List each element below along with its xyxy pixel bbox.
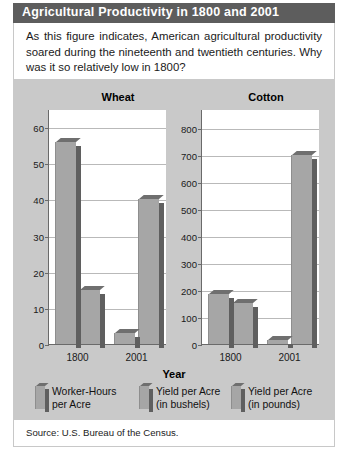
legend-item: Yield per Acre(in pounds): [231, 386, 312, 411]
y-axis-tickmark: [45, 164, 49, 165]
y-axis-tickmark: [45, 345, 49, 346]
y-axis-tick-label: 50: [15, 160, 44, 169]
bar-top-face: [139, 195, 164, 199]
bar-top-face: [56, 138, 81, 142]
y-axis-tickmark: [198, 183, 202, 184]
chart-panel: Wheat Cotton 010203040506018002001010020…: [13, 79, 335, 420]
y-axis-tickmark: [198, 291, 202, 292]
bar-side-face: [229, 298, 234, 348]
y-axis-tickmark: [198, 156, 202, 157]
y-axis-tickmark: [45, 128, 49, 129]
gridline: [48, 128, 166, 129]
y-axis-tick-label: 700: [168, 152, 197, 161]
legend-label: Yield per Acre(in pounds): [248, 386, 312, 411]
bar-top-face: [292, 151, 317, 155]
y-axis-tick-label: 30: [15, 233, 44, 242]
y-axis-tick-label: 10: [15, 305, 44, 314]
figure-title: Agricultural Productivity in 1800 and 20…: [22, 5, 279, 19]
legend-label-line2: per Acre: [52, 399, 116, 412]
y-axis-tickmark: [198, 345, 202, 346]
legend-item: Worker-Hoursper Acre: [35, 386, 116, 411]
bar-side-face: [100, 294, 105, 348]
figure-header-bar: Agricultural Productivity in 1800 and 20…: [13, 3, 335, 23]
y-axis-tick-label: 800: [168, 125, 197, 134]
y-axis-tickmark: [45, 200, 49, 201]
y-axis-tick-label: 20: [15, 269, 44, 278]
source-text: Source: U.S. Bureau of the Census.: [26, 427, 179, 438]
legend-item: Yield per Acre(in bushels): [139, 386, 220, 411]
y-axis-tick-label: 600: [168, 179, 197, 188]
bar: [291, 155, 312, 344]
figure-agricultural-productivity: Agricultural Productivity in 1800 and 20…: [0, 0, 340, 450]
bar-side-face: [253, 307, 258, 348]
bar-side-face: [135, 337, 140, 348]
legend-swatch-side: [45, 389, 49, 412]
legend-label-line1: Yield per Acre: [156, 386, 220, 399]
x-axis-line: [48, 344, 166, 345]
y-axis-tick-label: 0: [168, 341, 197, 350]
gridline: [201, 129, 319, 130]
legend-label-line1: Yield per Acre: [248, 386, 312, 399]
bar: [138, 199, 159, 344]
legend-label: Worker-Hoursper Acre: [52, 386, 116, 411]
chart-legend: Worker-Hoursper AcreYield per Acre(in bu…: [13, 386, 335, 420]
bar-side-face: [288, 344, 293, 348]
x-axis-line: [201, 344, 319, 345]
y-axis-tickmark: [198, 129, 202, 130]
y-axis-tick-label: 0: [15, 341, 44, 350]
x-axis-tick-label: 1800: [206, 352, 256, 363]
y-axis-tick-label: 200: [168, 287, 197, 296]
y-axis-tick-label: 100: [168, 314, 197, 323]
legend-label-line1: Worker-Hours: [52, 386, 116, 399]
y-axis-tickmark: [45, 237, 49, 238]
legend-swatch-side: [149, 389, 153, 412]
source-box: Source: U.S. Bureau of the Census.: [13, 420, 335, 447]
legend-swatch-top: [140, 383, 153, 386]
bar-top-face: [268, 336, 293, 340]
y-axis-tick-label: 500: [168, 206, 197, 215]
bar-top-face: [209, 290, 234, 294]
bar-side-face: [312, 159, 317, 348]
chart-title-wheat: Wheat: [73, 91, 163, 103]
x-axis-tick-label: 1800: [53, 352, 103, 363]
plot-area-cotton: [201, 110, 319, 345]
bar: [232, 303, 253, 344]
bar: [267, 340, 288, 344]
legend-swatch-top: [232, 383, 245, 386]
chart-title-cotton: Cotton: [221, 91, 311, 103]
bar: [114, 333, 135, 344]
x-axis-tick-label: 2001: [265, 352, 315, 363]
y-axis-line: [201, 110, 202, 345]
bar-side-face: [159, 203, 164, 348]
bar: [55, 142, 76, 344]
legend-label-line2: (in bushels): [156, 399, 220, 412]
y-axis-tickmark: [198, 318, 202, 319]
legend-label-line2: (in pounds): [248, 399, 312, 412]
bar-top-face: [80, 286, 105, 290]
bar-side-face: [76, 146, 81, 348]
bar-top-face: [233, 299, 258, 303]
legend-swatch: [139, 386, 149, 409]
bar: [79, 290, 100, 344]
y-axis-tick-label: 40: [15, 196, 44, 205]
y-axis-tick-label: 300: [168, 260, 197, 269]
figure-caption-text: As this figure indicates, American agric…: [26, 29, 322, 76]
legend-swatch-top: [36, 383, 49, 386]
y-axis-tickmark: [198, 237, 202, 238]
y-axis-tick-label: 60: [15, 124, 44, 133]
y-axis-tickmark: [45, 273, 49, 274]
bar: [208, 294, 229, 344]
figure-caption-box: As this figure indicates, American agric…: [13, 23, 335, 79]
y-axis-tickmark: [198, 264, 202, 265]
y-axis-tick-label: 400: [168, 233, 197, 242]
x-axis-tick-label: 2001: [112, 352, 162, 363]
y-axis-tickmark: [45, 309, 49, 310]
legend-swatch-side: [241, 389, 245, 412]
x-axis-title: Year: [13, 368, 335, 380]
legend-swatch: [231, 386, 241, 409]
plot-area-wheat: [48, 110, 166, 345]
legend-swatch: [35, 386, 45, 409]
bar-top-face: [115, 329, 140, 333]
y-axis-tickmark: [198, 210, 202, 211]
legend-label: Yield per Acre(in bushels): [156, 386, 220, 411]
